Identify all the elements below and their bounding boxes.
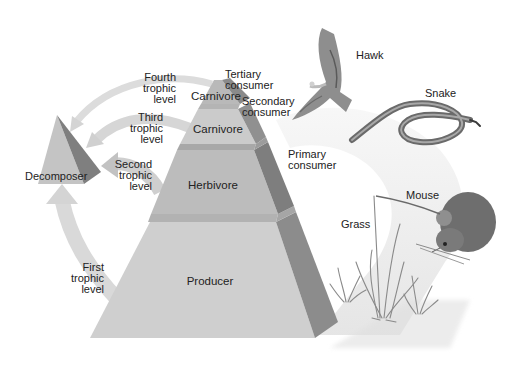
secondary-consumer-label: Secondary consumer bbox=[242, 96, 295, 118]
producer-label: Producer bbox=[180, 276, 240, 287]
arrowhead-first-icon bbox=[46, 184, 78, 204]
trophic-pyramid-diagram: Fourth trophic level Third trophic level… bbox=[0, 0, 528, 366]
herbivore-label: Herbivore bbox=[182, 180, 244, 191]
carnivore-third-label: Carnivore bbox=[188, 124, 248, 135]
decomposer-label: Decomposer bbox=[25, 171, 87, 182]
hawk-label: Hawk bbox=[356, 50, 384, 61]
second-trophic-level-label: Second trophic level bbox=[108, 159, 152, 192]
hawk-illustration bbox=[292, 28, 352, 120]
mouse-label: Mouse bbox=[406, 190, 439, 201]
fourth-trophic-level-label: Fourth trophic level bbox=[132, 72, 176, 105]
primary-consumer-label: Primary consumer bbox=[288, 149, 336, 171]
grass-label: Grass bbox=[341, 219, 370, 230]
snake-label: Snake bbox=[425, 88, 456, 99]
carnivore-fourth-label: Carnivore bbox=[186, 91, 246, 102]
first-trophic-level-label: First trophic level bbox=[60, 262, 104, 295]
diagram-graphics bbox=[0, 0, 528, 366]
tertiary-consumer-label: Tertiary consumer bbox=[225, 69, 273, 91]
third-trophic-level-label: Third trophic level bbox=[120, 112, 163, 145]
